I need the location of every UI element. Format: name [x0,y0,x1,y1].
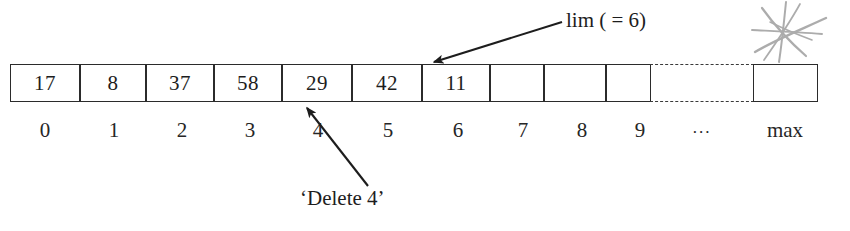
index-label-2: 2 [147,118,217,143]
annotation-overlay [0,0,850,231]
index-label-5: 5 [353,118,423,143]
star-scribble-icon [752,2,826,62]
array-cell-6: 11 [422,64,490,102]
array-gap-bottom-dashed-line [650,101,754,102]
index-label-1: 1 [79,118,149,143]
array-gap-top-dashed-line [650,64,754,65]
array-cell-value: 11 [445,71,466,96]
array-cell-3: 58 [214,64,282,102]
array-cell-value: 8 [108,71,119,96]
array-cell-2: 37 [146,64,214,102]
array-cell-value: 17 [34,71,56,96]
array-cell-1: 8 [80,64,146,102]
array-cell-max [753,64,818,102]
array-cell-value: 58 [237,71,259,96]
index-label-0: 0 [10,118,80,143]
lim-arrow [434,22,562,62]
array-cell-value: 42 [376,71,398,96]
array-cell-value: 29 [306,71,328,96]
array-cell-8 [544,64,606,102]
index-label-max: max [750,118,820,143]
index-label-ellipsis: ... [667,118,737,138]
index-label-4: 4 [283,118,353,143]
array-diagram-figure: 17 8 37 58 29 42 11 0 1 2 3 4 5 6 7 8 9 … [0,0,850,231]
array-cell-5: 42 [352,64,422,102]
array-cell-7 [490,64,544,102]
index-label-3: 3 [215,118,285,143]
index-label-6: 6 [423,118,493,143]
lim-annotation-label: lim ( = 6) [566,8,646,33]
array-cell-9 [606,64,651,102]
array-cell-0: 17 [10,64,80,102]
delete-annotation-label: ‘Delete 4’ [300,186,385,211]
index-label-9: 9 [605,118,675,143]
array-cell-4: 29 [282,64,352,102]
array-cell-value: 37 [169,71,191,96]
